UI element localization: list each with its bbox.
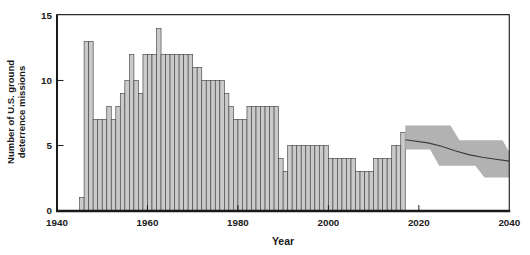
bar-1945	[80, 198, 85, 211]
x-axis-title: Year	[272, 235, 294, 247]
bar-2001	[333, 159, 338, 211]
x-tick-label-1940: 1940	[46, 217, 68, 228]
bar-1968	[184, 54, 189, 210]
bar-1961	[152, 54, 157, 210]
bar-1988	[274, 106, 279, 210]
y-axis-title-line2: deterrence missions	[16, 66, 27, 158]
y-tick-label-0: 0	[47, 205, 53, 216]
bar-1954	[120, 93, 125, 210]
projection-band-group	[405, 125, 509, 177]
bar-1996	[310, 146, 315, 211]
bar-1984	[256, 106, 261, 210]
bar-2003	[342, 159, 347, 211]
y-axis-title-line1: Number of U.S. ground	[5, 60, 16, 164]
bar-1976	[220, 80, 225, 210]
bar-1978	[229, 106, 234, 210]
bar-1975	[215, 80, 220, 210]
bar-2002	[337, 159, 342, 211]
x-tick-label-1980: 1980	[227, 217, 249, 228]
y-tick-label-10: 10	[41, 75, 52, 86]
bar-2008	[365, 172, 370, 211]
bar-1999	[324, 146, 329, 211]
bar-2012	[383, 159, 388, 211]
x-tick-label-1960: 1960	[137, 217, 159, 228]
bar-1952	[111, 120, 116, 211]
bar-2011	[378, 159, 383, 211]
bar-2010	[374, 159, 379, 211]
bar-1989	[279, 159, 284, 211]
bar-1969	[188, 54, 193, 210]
bar-2014	[392, 146, 397, 211]
bar-2005	[351, 159, 356, 211]
bar-2000	[328, 159, 333, 211]
bar-1994	[301, 146, 306, 211]
bar-1960	[147, 54, 152, 210]
bar-2006	[356, 172, 361, 211]
bar-1977	[224, 93, 229, 210]
y-tick-label-15: 15	[41, 10, 52, 21]
bar-2004	[346, 159, 351, 211]
bar-1979	[233, 120, 238, 211]
bar-1992	[292, 146, 297, 211]
x-tick-label-2040: 2040	[498, 217, 520, 228]
bars-group	[80, 28, 406, 210]
bar-1946	[84, 41, 89, 210]
y-tick-label-5: 5	[47, 140, 53, 151]
bar-1967	[179, 54, 184, 210]
bar-1990	[283, 172, 288, 211]
bar-1947	[89, 41, 94, 210]
x-tick-label-2020: 2020	[408, 217, 430, 228]
bar-1974	[211, 80, 216, 210]
bar-1955	[125, 80, 130, 210]
bar-1985	[261, 106, 266, 210]
deterrence-missions-chart: 194019601980200020202040051015 Year Numb…	[0, 0, 530, 255]
bar-2016	[401, 133, 406, 211]
bar-1987	[270, 106, 275, 210]
bar-1982	[247, 106, 252, 210]
bar-1962	[157, 28, 162, 210]
bar-1949	[98, 120, 103, 211]
bar-1951	[107, 106, 112, 210]
bar-1965	[170, 54, 175, 210]
bar-2009	[369, 172, 374, 211]
bar-1966	[175, 54, 180, 210]
bar-1957	[134, 80, 139, 210]
bar-1993	[297, 146, 302, 211]
bar-1971	[197, 67, 202, 210]
bar-1964	[166, 54, 171, 210]
bar-1956	[129, 54, 134, 210]
bar-1958	[138, 93, 143, 210]
bar-1970	[193, 67, 198, 210]
bar-2013	[387, 159, 392, 211]
bar-2007	[360, 172, 365, 211]
bar-1983	[251, 106, 256, 210]
bar-1948	[93, 120, 98, 211]
bar-1998	[319, 146, 324, 211]
bar-1986	[265, 106, 270, 210]
x-tick-label-2000: 2000	[318, 217, 340, 228]
bar-1950	[102, 120, 107, 211]
bar-1973	[206, 80, 211, 210]
bar-1980	[238, 120, 243, 211]
bar-1959	[143, 54, 148, 210]
bar-1991	[288, 146, 293, 211]
deterrence-missions-figure: 194019601980200020202040051015 Year Numb…	[0, 0, 530, 255]
bar-1997	[315, 146, 320, 211]
bar-1953	[116, 106, 121, 210]
bar-1972	[202, 80, 207, 210]
bar-1963	[161, 54, 166, 210]
bar-1995	[306, 146, 311, 211]
bar-2015	[396, 146, 401, 211]
bar-1981	[242, 120, 247, 211]
